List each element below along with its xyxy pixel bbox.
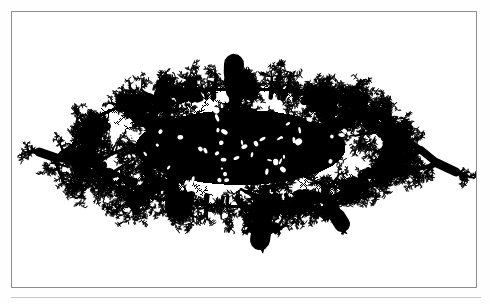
figure-frame [11,11,477,288]
fractal-cluster-canvas [12,12,476,287]
figure-root [0,0,490,304]
baseline-rule [11,297,481,298]
